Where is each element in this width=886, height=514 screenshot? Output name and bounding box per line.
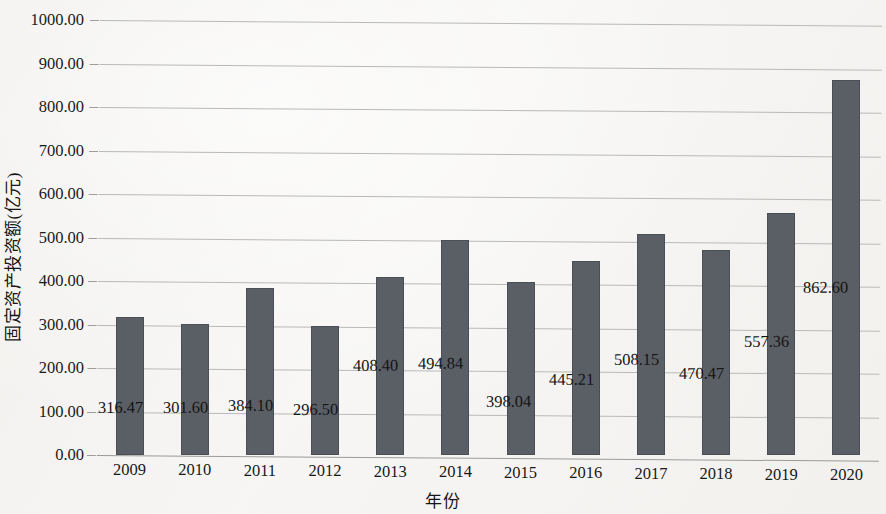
x-axis-tick-label: 2015 — [504, 463, 537, 483]
bar[interactable] — [637, 234, 665, 455]
y-axis-tick-mark — [87, 411, 96, 412]
y-axis-tick-mark — [89, 107, 98, 108]
bar[interactable] — [116, 317, 144, 455]
bar-value-label: 494.84 — [418, 354, 464, 374]
y-axis-tick-mark — [87, 368, 96, 369]
y-axis-tick-label: 300.00 — [39, 315, 84, 335]
y-axis-tick-mark — [90, 63, 99, 64]
bar-value-label: 862.60 — [803, 278, 849, 298]
x-axis-title: 年份 — [0, 487, 886, 512]
y-axis-tick-label: 200.00 — [39, 358, 84, 378]
y-axis-tick-label: 900.00 — [39, 54, 84, 74]
y-axis-tick-label: 800.00 — [39, 97, 84, 117]
y-axis-tick-mark — [88, 237, 97, 238]
bar[interactable] — [311, 326, 339, 455]
bar-value-label: 296.50 — [293, 400, 339, 420]
x-axis-tick-label: 2009 — [113, 460, 146, 480]
y-axis-tick-mark — [88, 281, 97, 282]
y-axis-tick-label: 1000.00 — [30, 10, 84, 30]
y-axis-tick-label: 500.00 — [39, 228, 84, 248]
x-axis-tick-label: 2020 — [830, 465, 863, 485]
bar[interactable] — [702, 250, 730, 455]
y-axis-tick-label: 600.00 — [39, 184, 84, 204]
x-axis-tick-label: 2010 — [178, 460, 211, 480]
bar[interactable] — [507, 282, 535, 455]
bar[interactable] — [181, 324, 209, 455]
x-axis-tick-label: 2014 — [439, 462, 472, 482]
bar-value-label: 384.10 — [228, 396, 274, 416]
bar[interactable] — [572, 261, 600, 455]
y-axis-tick-mark — [90, 20, 99, 21]
y-axis-tick-mark — [88, 324, 97, 325]
bar-value-label: 398.04 — [485, 392, 531, 412]
x-axis-tick-label: 2012 — [309, 461, 342, 481]
y-axis-title: 固定资产投资额(亿元) — [0, 142, 24, 372]
bar-series: 316.47301.60384.10296.50408.40494.84398.… — [100, 20, 882, 455]
x-axis-tick-label: 2016 — [569, 463, 602, 483]
x-axis-tick-label: 2019 — [765, 465, 798, 485]
bar-value-label: 316.47 — [97, 398, 143, 418]
y-axis-tick-label: 0.00 — [55, 445, 84, 465]
bar[interactable] — [246, 288, 274, 455]
plot-area: 316.47301.60384.10296.50408.40494.84398.… — [100, 20, 882, 455]
chart-canvas: 0.00100.00200.00300.00400.00500.00600.00… — [0, 0, 886, 514]
bar-value-label: 301.60 — [163, 398, 209, 418]
bar-value-label: 470.47 — [679, 364, 725, 384]
bar[interactable] — [832, 80, 860, 455]
bar-value-label: 408.40 — [353, 356, 399, 376]
x-axis-tick-label: 2017 — [634, 464, 667, 484]
x-axis-tick-label: 2018 — [700, 464, 733, 484]
y-axis-tick-label: 400.00 — [39, 271, 84, 291]
bar-value-label: 557.36 — [744, 332, 790, 352]
x-axis-tick-label: 2013 — [374, 462, 407, 482]
y-axis-tick-label: 700.00 — [39, 141, 84, 161]
y-axis-tick-mark — [89, 150, 98, 151]
bar[interactable] — [441, 240, 469, 455]
y-axis-tick-mark — [89, 194, 98, 195]
x-axis-tick-labels: 2009201020112012201320142015201620172018… — [100, 460, 882, 488]
bar-value-label: 445.21 — [549, 370, 595, 390]
bar-value-label: 508.15 — [614, 350, 660, 370]
y-axis-tick-mark — [87, 455, 96, 456]
y-axis-tick-label: 100.00 — [39, 402, 84, 422]
x-axis-tick-label: 2011 — [244, 461, 276, 481]
